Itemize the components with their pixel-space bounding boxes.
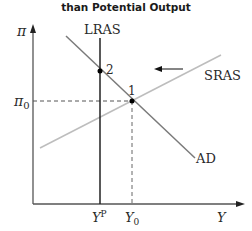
shift-arrow-icon: [154, 66, 162, 72]
sras-label: SRAS: [204, 68, 241, 83]
point-2-label: 2: [106, 63, 114, 77]
y-axis-label: π: [16, 23, 27, 39]
as-ad-diagram: π LRAS 2 1 SRAS AD π0 YP Y0 Y: [0, 0, 252, 231]
y-axis-arrow-icon: [30, 24, 36, 33]
y0-label: Y0: [125, 210, 140, 227]
point-2: [98, 69, 103, 74]
point-1: [130, 99, 135, 104]
pi0-label: π0: [13, 93, 30, 111]
lras-label: LRAS: [84, 22, 121, 37]
x-axis-arrow-icon: [236, 201, 245, 207]
x-axis-label: Y: [217, 210, 227, 225]
ad-label: AD: [195, 151, 216, 166]
yp-label: YP: [92, 209, 107, 225]
point-1-label: 1: [128, 84, 136, 98]
